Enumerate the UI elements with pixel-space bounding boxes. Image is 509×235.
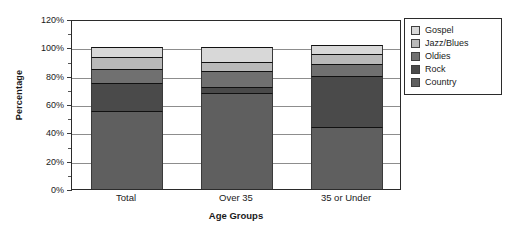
y-tick-label: 100%: [28, 43, 64, 53]
legend-item[interactable]: Jazz/Blues: [411, 37, 496, 50]
bar-segment: [91, 111, 163, 189]
bar-segment: [91, 57, 163, 68]
y-tick-label: 40%: [28, 128, 64, 138]
bar-stack: [201, 47, 273, 189]
bar-segment: [201, 71, 273, 87]
bar-segment: [201, 93, 273, 189]
legend-label: Jazz/Blues: [425, 39, 469, 48]
y-tick-mark: [67, 190, 72, 191]
x-tick-label: Total: [116, 192, 136, 203]
y-tick-label: 0%: [28, 185, 64, 195]
y-tick-label: 120%: [28, 15, 64, 25]
legend-color-swatch: [411, 39, 420, 48]
y-axis-title: Percentage: [10, 0, 28, 190]
x-tick-label: 35 or Under: [321, 192, 371, 203]
bar-segment: [91, 83, 163, 111]
x-axis-title: Age Groups: [71, 210, 401, 221]
legend-item[interactable]: Rock: [411, 63, 496, 76]
y-tick-label: 20%: [28, 157, 64, 167]
legend-label: Rock: [425, 65, 446, 74]
legend-label: Country: [425, 78, 457, 87]
bar-segment: [311, 54, 383, 64]
chart-figure: Percentage 0%20%40%60%80%100%120% TotalO…: [0, 0, 509, 235]
bar-segment: [91, 47, 163, 57]
bar-stack: [91, 47, 163, 189]
legend-item[interactable]: Country: [411, 76, 496, 89]
bar-segment: [201, 47, 273, 61]
x-axis-tick-labels: TotalOver 3535 or Under: [71, 192, 401, 208]
bar-segment: [311, 45, 383, 55]
legend-item[interactable]: Oldies: [411, 50, 496, 63]
legend-color-swatch: [411, 78, 420, 87]
legend-color-swatch: [411, 52, 420, 61]
legend-color-swatch: [411, 65, 420, 74]
legend-item[interactable]: Gospel: [411, 24, 496, 37]
legend-label: Oldies: [425, 52, 451, 61]
legend-label: Gospel: [425, 26, 454, 35]
bar-stack: [311, 45, 383, 190]
y-axis-tick-labels: 0%20%40%60%80%100%120%: [28, 20, 64, 190]
bar-group: [72, 21, 400, 189]
plot-area: [71, 20, 401, 190]
y-axis-title-text: Percentage: [14, 70, 24, 121]
bar-segment: [311, 64, 383, 75]
legend-color-swatch: [411, 26, 420, 35]
y-tick-label: 80%: [28, 72, 64, 82]
y-tick-label: 60%: [28, 100, 64, 110]
x-tick-label: Over 35: [219, 192, 253, 203]
bar-segment: [91, 69, 163, 83]
bar-segment: [201, 62, 273, 72]
bar-segment: [311, 76, 383, 127]
bar-segment: [311, 127, 383, 189]
legend: GospelJazz/BluesOldiesRockCountry: [404, 18, 502, 95]
